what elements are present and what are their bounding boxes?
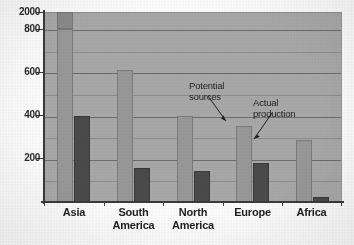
y-axis-label-200: 200 xyxy=(0,153,40,163)
y-axis-label-400: 400 xyxy=(0,110,40,120)
annotation-actual-production: Actual production xyxy=(253,97,295,119)
bar-potential-north-america xyxy=(177,116,193,203)
y-axis-label-600: 600 xyxy=(0,67,40,77)
annotation-actual-production-line2: production xyxy=(253,108,295,119)
bar-actual-europe xyxy=(253,163,269,202)
y-axis-label-800: 800 xyxy=(0,24,40,34)
x-axis-label-south-america: South America xyxy=(104,206,163,232)
bar-actual-asia xyxy=(74,116,90,203)
x-axis-label-europe: Europe xyxy=(223,206,282,219)
annotation-potential-sources: Potential sources xyxy=(189,80,224,102)
annotation-potential-sources-line1: Potential xyxy=(189,80,224,91)
x-axis-label-europe-line1: Europe xyxy=(223,206,282,219)
x-axis-label-north-america-line1: North xyxy=(163,206,223,219)
y-axis-line xyxy=(43,10,45,204)
x-axis-line xyxy=(41,201,344,203)
x-axis-label-asia-line1: Asia xyxy=(44,206,104,219)
x-axis-label-asia: Asia xyxy=(44,206,104,219)
x-axis-label-south-america-line2: America xyxy=(104,219,163,232)
x-axis-label-africa-line1: Africa xyxy=(282,206,341,219)
bar-potential-europe xyxy=(236,126,252,202)
bar-potential-asia xyxy=(57,29,73,202)
annotation-potential-sources-line2: sources xyxy=(189,91,224,102)
asia-potential-bar-overrange-cap xyxy=(57,12,73,29)
bar-actual-north-america xyxy=(194,171,210,202)
bar-actual-south-america xyxy=(134,168,150,202)
x-axis-label-north-america-line2: America xyxy=(163,219,223,232)
annotation-actual-production-line1: Actual xyxy=(253,97,295,108)
x-axis-label-north-america: North America xyxy=(163,206,223,232)
chart-figure: 2000 800 600 400 200 Potential sources A… xyxy=(0,0,354,245)
bar-potential-africa xyxy=(296,140,312,202)
x-tick-5 xyxy=(341,201,342,206)
x-axis-label-south-america-line1: South xyxy=(104,206,163,219)
x-axis-label-africa: Africa xyxy=(282,206,341,219)
y-axis-label-2000: 2000 xyxy=(0,7,40,17)
bar-potential-south-america xyxy=(117,70,133,202)
